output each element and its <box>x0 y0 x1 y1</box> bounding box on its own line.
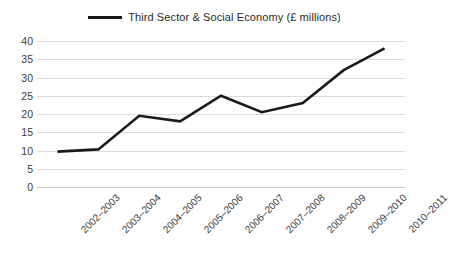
x-tick-label-2008-2009: 2008–2009 <box>324 192 367 235</box>
x-tick-label-2003-2004: 2003–2004 <box>120 192 163 235</box>
x-tick-label-2005-2006: 2005–2006 <box>202 192 245 235</box>
x-tick-label-2010-2011: 2010–2011 <box>406 192 449 235</box>
x-tick-label-2007-2008: 2007–2008 <box>284 192 327 235</box>
x-tick-label-2004-2005: 2004–2005 <box>161 192 204 235</box>
x-tick-label-2002-2003: 2002–2003 <box>79 192 122 235</box>
x-tick-label-2009-2010: 2009–2010 <box>365 192 408 235</box>
x-tick-label-2006-2007: 2006–2007 <box>243 192 286 235</box>
